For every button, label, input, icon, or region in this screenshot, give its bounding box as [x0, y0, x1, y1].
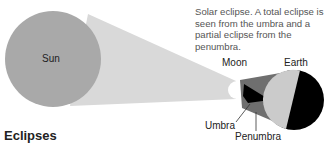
section-title: Eclipses: [4, 128, 57, 143]
penumbra-label: Penumbra: [235, 131, 281, 142]
moon-label: Moon: [222, 57, 247, 68]
figure-caption: Solar eclipse. A total eclipse is seen f…: [195, 6, 330, 52]
sun-label: Sun: [42, 53, 60, 64]
earth-label: Earth: [284, 57, 308, 68]
umbra-label: Umbra: [205, 120, 235, 131]
